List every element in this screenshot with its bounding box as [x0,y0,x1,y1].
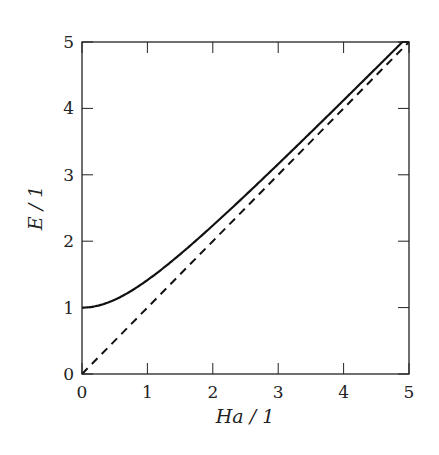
y-tick-label: 3 [63,165,74,185]
chart: 012345012345 Ha / 1 E / 1 [0,0,439,455]
y-axis-label: E / 1 [24,186,46,231]
dashed-line [82,42,409,374]
x-tick-label: 3 [273,382,284,402]
y-tick-label: 2 [63,231,74,251]
x-axis-label: Ha / 1 [215,405,274,427]
x-tick-label: 5 [404,382,415,402]
y-tick-label: 0 [63,364,74,384]
x-tick-label: 2 [207,382,218,402]
tick-labels: 012345012345 [63,32,414,402]
y-tick-label: 1 [63,298,74,318]
y-tick-label: 4 [63,98,74,118]
x-tick-label: 4 [338,382,349,402]
solid-curve [82,42,409,308]
x-tick-label: 1 [142,382,153,402]
y-tick-label: 5 [63,32,74,52]
x-tick-label: 0 [77,382,88,402]
